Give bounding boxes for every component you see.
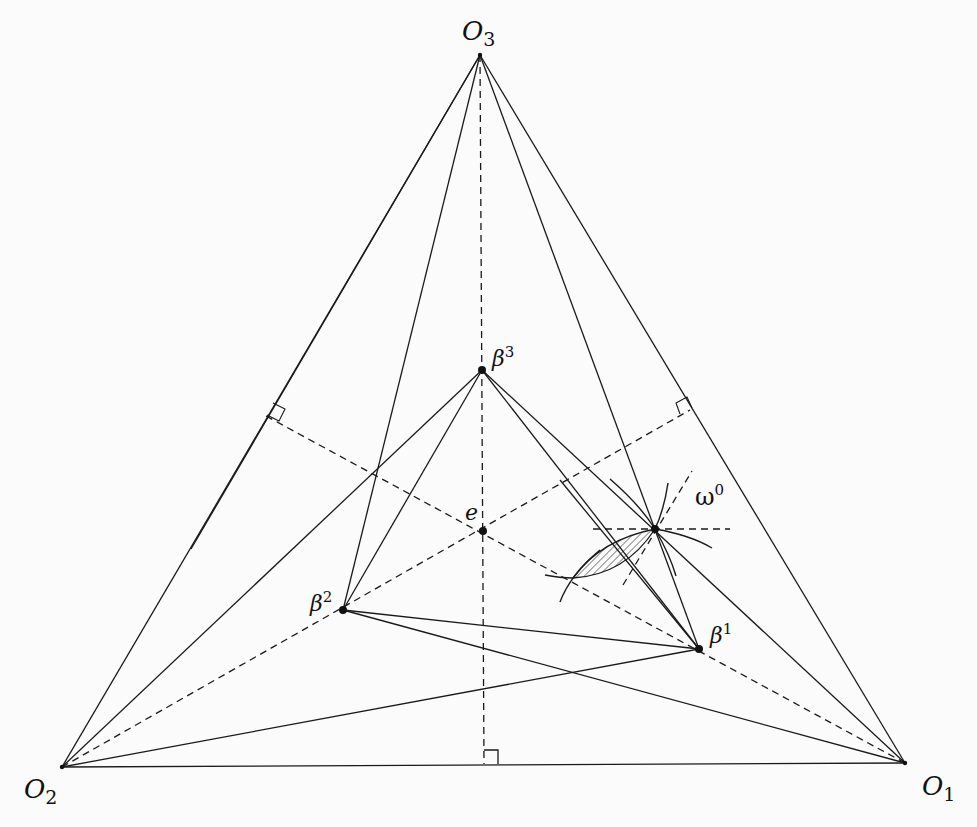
beta1-o2 — [62, 649, 699, 767]
point-omega0 — [651, 525, 659, 533]
point-e — [479, 527, 487, 535]
beta3-o2 — [62, 370, 482, 767]
ray-o3-beta2 — [343, 55, 480, 610]
vertex-o1 — [903, 761, 907, 765]
point-beta1 — [695, 645, 703, 653]
medians — [62, 55, 905, 767]
omega0-curve-upper-left — [610, 479, 655, 529]
right-angle-bottom — [484, 750, 498, 764]
beta3-beta2 — [343, 370, 482, 610]
triangle-diagram: O3 O2 O1 e β3 β2 β1 ω0 — [0, 0, 977, 827]
point-beta2 — [339, 606, 347, 614]
labels: O3 O2 O1 e β3 β2 β1 ω0 — [24, 16, 955, 808]
right-angle-markers — [267, 397, 692, 764]
rays-from-beta1 — [62, 480, 699, 767]
median-o3 — [480, 55, 484, 764]
beta3-o1 — [482, 370, 905, 763]
lens-left-tail — [545, 575, 573, 578]
label-omega0: ω0 — [695, 481, 724, 511]
edge-o1-o3 — [480, 55, 905, 763]
label-beta3: β3 — [491, 343, 514, 371]
ray-o3-left — [191, 55, 480, 549]
omega0-curve-lower — [655, 529, 676, 576]
point-beta3 — [478, 366, 486, 374]
rays-from-beta2 — [343, 610, 905, 763]
beta1-upper — [560, 480, 699, 649]
label-o1: O1 — [922, 771, 955, 805]
vertex-o3 — [478, 53, 482, 57]
label-o3: O3 — [462, 16, 495, 50]
right-angle-right — [676, 397, 692, 414]
vertex-o2 — [60, 765, 64, 769]
beta2-beta1 — [343, 610, 699, 649]
label-beta2: β2 — [309, 588, 332, 616]
label-o2: O2 — [24, 774, 57, 808]
median-o2 — [62, 410, 690, 767]
label-e: e — [465, 500, 478, 525]
beta2-o1 — [343, 610, 905, 763]
label-beta1: β1 — [709, 620, 732, 648]
